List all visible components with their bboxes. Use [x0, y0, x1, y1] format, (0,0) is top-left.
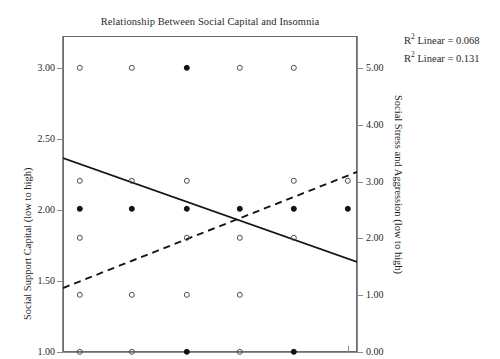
y-left-tick-1.50 [57, 281, 62, 282]
y-left-tick-1.00 [57, 352, 62, 353]
y-axis-right-title: Social Stress and Aggression (low to hig… [393, 95, 404, 274]
data-point-open [237, 349, 243, 355]
y-right-tick-3.00 [358, 182, 363, 183]
y-left-tick-3.00 [57, 68, 62, 69]
y-axis-left-line [62, 36, 63, 353]
superscript-two: 2 [411, 50, 415, 59]
r2-annotations: R2 Linear = 0.068 R2 Linear = 0.131 [404, 30, 480, 65]
chart-title: Relationship Between Social Capital and … [63, 16, 357, 27]
r2-annotation-line-1: R2 Linear = 0.068 [404, 30, 480, 48]
y-right-tick-5.00 [358, 68, 363, 69]
plot-lines-layer [63, 36, 357, 352]
y-axis-right-line [357, 36, 358, 353]
x-axis-tick-6 [348, 346, 349, 352]
y-left-label-2.00: 2.00 [15, 204, 55, 215]
data-point-open [77, 349, 83, 355]
y-left-label-3.00: 3.00 [15, 62, 55, 73]
data-point-open [129, 349, 135, 355]
data-point-filled [184, 349, 190, 355]
r2-annotation-line-2: R2 Linear = 0.131 [404, 48, 480, 66]
y-left-label-1.50: 1.50 [15, 275, 55, 286]
chart-screenshot: Relationship Between Social Capital and … [0, 0, 500, 359]
y-right-tick-1.00 [358, 295, 363, 296]
y-left-label-2.50: 2.50 [15, 133, 55, 144]
r2-value-1: 0.068 [456, 35, 480, 46]
data-point-filled [291, 349, 297, 355]
fit-line-social-support-capital [63, 158, 357, 262]
r2-value-2: 0.131 [456, 52, 480, 63]
y-right-tick-0.00 [358, 352, 363, 353]
superscript-two: 2 [411, 32, 415, 41]
y-axis-left-title: Social Support Capital (low to high) [22, 167, 33, 320]
x-axis-line [63, 352, 358, 353]
y-right-label-5.00: 5.00 [366, 62, 406, 73]
y-right-tick-4.00 [358, 125, 363, 126]
y-left-tick-2.00 [57, 210, 62, 211]
y-right-tick-2.00 [358, 238, 363, 239]
fit-line-social-stress-aggression [63, 172, 357, 288]
y-right-label-0.00: 0.00 [366, 346, 406, 357]
y-left-label-1.00: 1.00 [15, 346, 55, 357]
y-right-label-1.00: 1.00 [366, 289, 406, 300]
y-left-tick-2.50 [57, 139, 62, 140]
